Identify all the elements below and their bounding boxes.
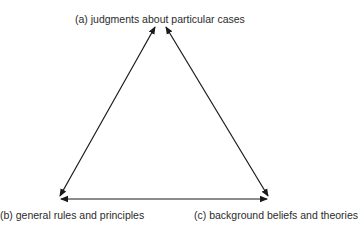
node-c-label: (c) background beliefs and theories [194, 209, 358, 221]
reflective-equilibrium-diagram: (a) judgments about particular cases (b)… [0, 0, 364, 235]
edge-a-b-arrow [60, 27, 155, 196]
edge-a-c-arrow [166, 27, 268, 196]
diagram-edges [0, 0, 364, 235]
node-b-label: (b) general rules and principles [0, 209, 144, 221]
